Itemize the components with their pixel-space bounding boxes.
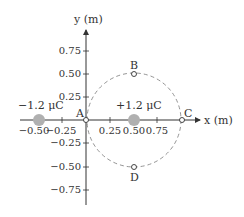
x-axis-label: x (m) [204,114,233,127]
positive-charge [128,114,140,126]
point-a [84,118,89,123]
point-c-label: C [184,107,192,120]
diagram-canvas: y (m) x (m) −0.50 −0.25 0.25 0.50 0.75 0… [0,0,244,217]
svg-text:0.50: 0.50 [123,125,145,136]
svg-text:−0.25: −0.25 [46,125,77,136]
y-axis-label: y (m) [73,13,103,26]
point-b [132,72,137,77]
point-d [132,165,137,170]
x-tick-labels: −0.50 −0.25 0.25 0.50 0.75 [19,125,168,136]
svg-text:0.50: 0.50 [59,68,81,79]
negative-charge [33,114,45,126]
point-d-label: D [130,171,139,184]
svg-text:−0.25: −0.25 [50,137,81,148]
point-b-label: B [130,59,138,72]
svg-text:0.75: 0.75 [146,125,168,136]
svg-text:0.75: 0.75 [59,45,81,56]
point-a-label: A [75,107,85,120]
positive-charge-label: +1.2 μC [116,99,162,112]
svg-text:−0.75: −0.75 [50,184,81,195]
svg-text:0.25: 0.25 [99,125,121,136]
svg-text:−0.50: −0.50 [50,161,81,172]
negative-charge-label: −1.2 μC [18,99,64,112]
